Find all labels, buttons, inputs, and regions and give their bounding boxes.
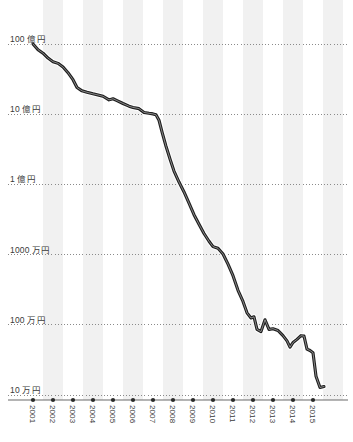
x-axis-tick-label: 2010	[208, 405, 217, 423]
y-axis-tick-label: 1 億円	[10, 172, 36, 184]
x-axis-tick-dots	[31, 398, 315, 402]
x-axis-tick-label: 2007	[148, 405, 157, 423]
x-axis-tick-label: 2011	[228, 405, 237, 423]
x-axis-tick-label: 2004	[88, 405, 97, 423]
y-axis-tick-label: 100 億円	[10, 32, 46, 44]
x-axis-tick-label: 2008	[168, 405, 177, 423]
y-axis-tick-label: 10 万円	[10, 383, 41, 395]
y-axis-tick-label: 100 万円	[10, 313, 46, 325]
x-axis-tick-label: 2006	[128, 405, 137, 423]
x-axis-tick-label: 2002	[48, 405, 57, 423]
line-chart-plot	[0, 0, 353, 442]
x-axis-tick-label: 2015	[308, 405, 317, 423]
chart-container: 100 億円10 億円1 億円1000 万円100 万円10 万円 200120…	[0, 0, 353, 442]
x-axis-tick-label: 2012	[248, 405, 257, 423]
y-axis-tick-label: 10 億円	[10, 102, 41, 114]
x-axis-tick-label: 2005	[108, 405, 117, 423]
x-axis-tick-label: 2014	[288, 405, 297, 423]
x-axis-tick-label: 2009	[188, 405, 197, 423]
y-axis-tick-label: 1000 万円	[10, 243, 51, 255]
x-axis-tick-label: 2013	[268, 405, 277, 423]
x-axis-tick-label: 2001	[28, 405, 37, 423]
x-axis-tick-label: 2003	[68, 405, 77, 423]
